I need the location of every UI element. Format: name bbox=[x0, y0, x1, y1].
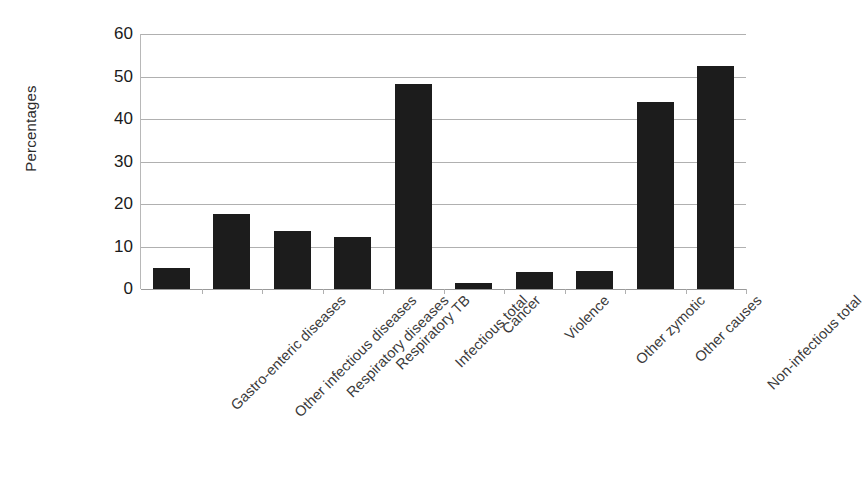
bar bbox=[334, 237, 371, 289]
plot-area bbox=[140, 34, 745, 289]
y-tick-label-30: 30 bbox=[99, 153, 133, 170]
y-tick-label-0: 0 bbox=[99, 280, 133, 297]
y-tick-label-10: 10 bbox=[99, 238, 133, 255]
bar bbox=[637, 102, 674, 289]
bar bbox=[395, 84, 432, 289]
y-tick-label-40: 40 bbox=[99, 110, 133, 127]
y-tick-label-50: 50 bbox=[99, 68, 133, 85]
bar bbox=[697, 66, 734, 289]
x-label: Gastro-enteric diseases bbox=[228, 292, 349, 413]
y-tick-label-60: 60 bbox=[99, 25, 133, 42]
bar bbox=[516, 272, 553, 289]
bar bbox=[153, 268, 190, 289]
bar bbox=[274, 231, 311, 289]
bars-group bbox=[141, 34, 746, 289]
bar bbox=[213, 214, 250, 289]
bar bbox=[455, 283, 492, 289]
x-axis-category-labels: Gastro-enteric diseasesOther infectious … bbox=[140, 292, 770, 496]
y-tick-label-20: 20 bbox=[99, 195, 133, 212]
y-axis-title: Percentages bbox=[22, 59, 39, 199]
bar bbox=[576, 271, 613, 289]
x-label: Non-infectious total bbox=[764, 292, 864, 392]
y-axis-tick-labels: 0102030405060 bbox=[95, 0, 133, 496]
x-label: Violence bbox=[562, 292, 613, 343]
